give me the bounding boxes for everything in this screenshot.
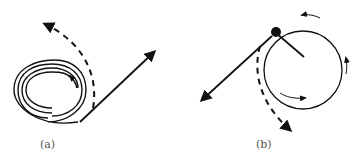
- rotation-arrow-right: [346, 58, 347, 74]
- figure: (a) (b): [0, 0, 359, 160]
- panel-b: [202, 15, 347, 130]
- circle-path: [264, 31, 342, 109]
- dashed-trajectory-arrow: [45, 24, 94, 108]
- pivot-dot: [271, 27, 281, 37]
- spiral-coil: [14, 60, 86, 123]
- dashed-trajectory-arrow-b: [257, 46, 290, 130]
- panel-a-label: (a): [40, 138, 55, 151]
- inner-rotation-arrow: [70, 76, 77, 88]
- radius-line: [276, 33, 304, 57]
- straight-force-arrow: [80, 52, 154, 122]
- panel-b-label: (b): [256, 138, 272, 151]
- diagram-canvas: [0, 0, 359, 160]
- rotation-arrow-bottom: [280, 93, 305, 98]
- panel-a: [14, 24, 154, 123]
- rotation-arrow-top: [302, 15, 320, 18]
